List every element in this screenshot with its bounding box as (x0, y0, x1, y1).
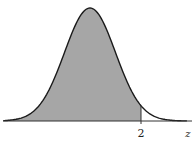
axis-label-z: z (184, 128, 191, 139)
normal-curve-chart: 2 z (0, 0, 194, 143)
tick-label-2: 2 (138, 127, 145, 140)
